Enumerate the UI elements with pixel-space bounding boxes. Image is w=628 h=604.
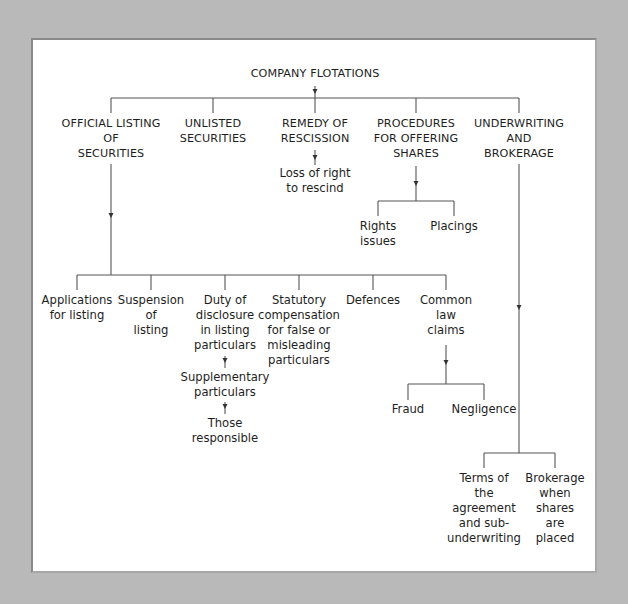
node-brokerage-when-placed: Brokerage when shares are placed: [525, 471, 584, 546]
node-suspension-of-listing: Suspension of listing: [118, 293, 184, 338]
node-negligence: Negligence: [452, 402, 517, 417]
node-remedy-of-rescission: REMEDY OF RESCISSION: [281, 116, 350, 146]
node-duty-of-disclosure: Duty of disclosure in listing particular…: [194, 293, 256, 353]
node-statutory-compensation: Statutory compensation for false or misl…: [258, 293, 340, 368]
node-procedures-offering-shares: PROCEDURES FOR OFFERING SHARES: [374, 116, 459, 161]
node-common-law-claims: Common law claims: [420, 293, 472, 338]
node-loss-of-right: Loss of right to rescind: [279, 166, 350, 196]
node-company-flotations: COMPANY FLOTATIONS: [251, 66, 380, 81]
node-fraud: Fraud: [392, 402, 424, 417]
node-applications-for-listing: Applications for listing: [42, 293, 113, 323]
node-terms-of-agreement: Terms of the agreement and sub- underwri…: [447, 471, 521, 546]
node-official-listing: OFFICIAL LISTING OF SECURITIES: [62, 116, 161, 161]
node-supplementary-particulars: Supplementary particulars: [181, 370, 270, 400]
node-placings: Placings: [430, 219, 478, 234]
node-those-responsible: Those responsible: [192, 416, 258, 446]
node-unlisted-securities: UNLISTED SECURITIES: [180, 116, 247, 146]
node-defences: Defences: [346, 293, 400, 308]
node-rights-issues: Rights issues: [360, 219, 397, 249]
node-underwriting-brokerage: UNDERWRITING AND BROKERAGE: [474, 116, 564, 161]
